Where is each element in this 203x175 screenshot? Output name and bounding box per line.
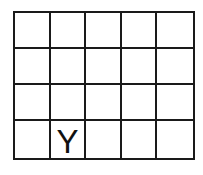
grid-cell-r4-c1[interactable] <box>15 121 51 158</box>
grid-cell-r2-c5[interactable] <box>157 49 193 85</box>
grid-cell-r1-c3[interactable] <box>86 13 122 49</box>
grid-cell-r3-c5[interactable] <box>157 85 193 121</box>
grid-cell-r4-c4[interactable] <box>122 121 158 158</box>
grid-cell-r4-c3[interactable] <box>86 121 122 158</box>
grid-cell-r1-c4[interactable] <box>122 13 158 49</box>
letter-grid: Y <box>13 11 195 160</box>
grid-cell-r3-c2[interactable] <box>51 85 87 121</box>
grid-cell-r2-c4[interactable] <box>122 49 158 85</box>
grid-cell-r1-c2[interactable] <box>51 13 87 49</box>
grid-cell-r3-c3[interactable] <box>86 85 122 121</box>
grid-cell-r1-c1[interactable] <box>15 13 51 49</box>
grid-cell-r1-c5[interactable] <box>157 13 193 49</box>
grid-cell-r3-c1[interactable] <box>15 85 51 121</box>
grid-cell-r2-c2[interactable] <box>51 49 87 85</box>
grid-cell-r4-c2[interactable]: Y <box>51 121 87 158</box>
grid-cell-r2-c3[interactable] <box>86 49 122 85</box>
grid-cell-r3-c4[interactable] <box>122 85 158 121</box>
grid-cell-r2-c1[interactable] <box>15 49 51 85</box>
grid-cell-r4-c5[interactable] <box>157 121 193 158</box>
